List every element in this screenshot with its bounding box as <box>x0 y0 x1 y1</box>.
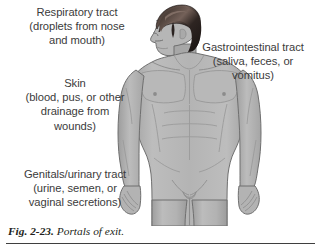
figure-caption: Fig. 2-23. Portals of exit. <box>8 224 124 238</box>
label-gastrointestinal-tract: Gastrointestinal tract (saliva, feces, o… <box>186 40 320 83</box>
label-respiratory-tract: Respiratory tract (droplets from nose an… <box>4 5 150 48</box>
nipple-right <box>222 92 226 96</box>
label-skin: Skin (blood, pus, or other drainage from… <box>2 76 148 133</box>
caption-figure-title: Portals of exit. <box>57 225 124 237</box>
figure-page: Respiratory tract (droplets from nose an… <box>0 0 321 249</box>
leg-right <box>192 200 227 226</box>
ear-shape <box>180 29 186 39</box>
nipple-left <box>153 92 157 96</box>
caption-figure-number: Fig. 2-23. <box>8 225 54 237</box>
hand-right <box>238 186 259 214</box>
caption-divider-rule <box>6 243 315 244</box>
leg-left <box>152 200 187 226</box>
label-genitals-urinary-tract: Genitals/urinary tract (urine, semen, or… <box>1 167 149 210</box>
